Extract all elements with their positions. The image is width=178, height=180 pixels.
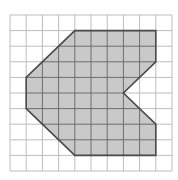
- grid-diagram: [0, 0, 178, 180]
